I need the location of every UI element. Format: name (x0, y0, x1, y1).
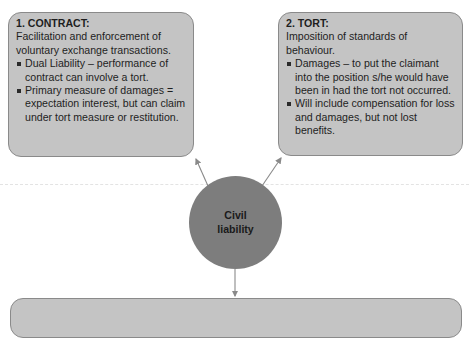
civil-liability-node: Civil liability (189, 176, 282, 269)
arrow-to-contract (196, 159, 208, 186)
contract-bullets: Dual Liability – performance of contract… (16, 57, 186, 124)
contract-bullet: Primary measure of damages = expectation… (16, 84, 186, 124)
tort-intro: Imposition of standards of behaviour. (286, 30, 455, 57)
contract-intro: Facilitation and enforcement of voluntar… (16, 30, 186, 57)
tort-bullet: Will include compensation for loss and d… (286, 97, 455, 137)
tort-box: 2. TORT: Imposition of standards of beha… (278, 12, 463, 156)
tort-bullets: Damages – to put the claimant into the p… (286, 57, 455, 137)
bottom-box (10, 298, 462, 338)
contract-bullet: Dual Liability – performance of contract… (16, 57, 186, 84)
arrow-to-tort (262, 158, 281, 186)
contract-title: 1. CONTRACT: (16, 17, 186, 30)
tort-title: 2. TORT: (286, 17, 455, 30)
center-label: Civil liability (206, 209, 266, 236)
tort-bullet: Damages – to put the claimant into the p… (286, 57, 455, 97)
contract-box: 1. CONTRACT: Facilitation and enforcemen… (8, 12, 194, 157)
